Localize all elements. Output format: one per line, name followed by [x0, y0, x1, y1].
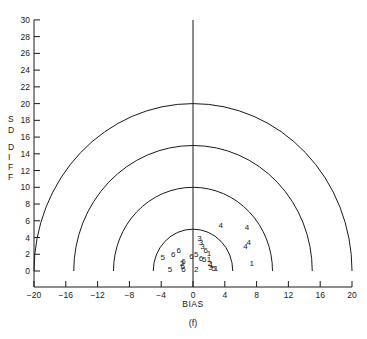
figure-caption: (f): [189, 318, 198, 328]
y-tick-label: 2: [25, 249, 30, 259]
x-tick-label: 16: [315, 290, 325, 300]
y-tick-label: 12: [21, 166, 31, 176]
data-point-marker: 5: [168, 265, 173, 274]
y-axis-label: SDDIFF: [8, 114, 15, 182]
y-tick-label: 24: [21, 65, 31, 75]
y-tick-label: 20: [21, 99, 31, 109]
y-tick-label: 10: [21, 182, 31, 192]
y-tick-label: 4: [25, 233, 30, 243]
data-point-marker: 6: [176, 246, 181, 255]
y-tick-label: 30: [21, 15, 31, 25]
y-label-letter: D: [8, 142, 15, 152]
data-point-marker: 2: [194, 265, 199, 274]
data-point-marker: 1: [250, 259, 255, 268]
data-point-marker: 6: [189, 252, 194, 261]
y-label-letter: D: [8, 125, 15, 135]
x-tick-label: 20: [347, 290, 357, 300]
x-tick-label: −16: [59, 290, 74, 300]
y-label-letter: I: [8, 152, 11, 162]
data-point-marker: 4: [245, 223, 250, 232]
data-point-marker: 1: [214, 264, 219, 273]
data-point-marker: 4: [219, 221, 224, 230]
data-point-marker: 6: [171, 250, 176, 259]
x-tick-label: 4: [222, 290, 227, 300]
data-point-marker: 5: [161, 253, 166, 262]
y-tick-label: 28: [21, 32, 31, 42]
x-tick-label: 8: [254, 290, 259, 300]
y-tick-label: 16: [21, 132, 31, 142]
x-tick-label: −4: [156, 290, 166, 300]
data-point-marker: 6: [181, 265, 186, 274]
data-point-marker: 4: [243, 242, 248, 251]
y-tick-label: 18: [21, 115, 31, 125]
y-tick-label: 14: [21, 149, 31, 159]
x-tick-label: −20: [27, 290, 42, 300]
y-label-letter: F: [8, 162, 14, 172]
y-tick-label: 6: [25, 216, 30, 226]
y-label-letter: F: [8, 172, 14, 182]
x-axis-label: BIAS: [182, 299, 203, 309]
y-label-letter: S: [8, 114, 14, 124]
x-axis: −20−16−12−8−4048121620: [27, 281, 357, 300]
y-tick-label: 22: [21, 82, 31, 92]
polar-scatter-chart: 024681012141618202224262830 −20−16−12−8−…: [0, 0, 367, 339]
y-tick-label: 8: [25, 199, 30, 209]
data-points: 44441333615651213515665626662: [161, 221, 255, 274]
y-tick-label: 26: [21, 48, 31, 58]
y-tick-label: 0: [25, 266, 30, 276]
x-tick-label: −8: [125, 290, 135, 300]
x-tick-label: 12: [284, 290, 294, 300]
x-tick-label: −12: [90, 290, 105, 300]
y-axis: 024681012141618202224262830: [21, 15, 40, 287]
